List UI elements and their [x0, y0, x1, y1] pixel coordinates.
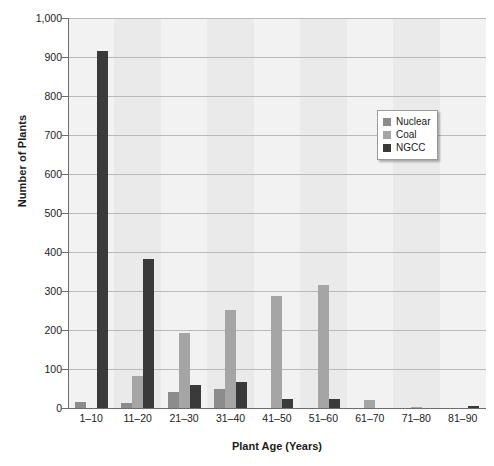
x-axis-tick-label: 61–70 [347, 412, 393, 424]
bar-ngcc-51-60 [329, 399, 340, 408]
bar-group [207, 18, 253, 408]
legend-item-coal[interactable]: Coal [383, 128, 430, 141]
legend-swatch-icon [383, 118, 391, 126]
bar-coal-11-20 [132, 376, 143, 408]
x-axis-tick-label: 81–90 [440, 412, 486, 424]
legend-item-nuclear[interactable]: Nuclear [383, 115, 430, 128]
y-axis-tick-label: 200 [22, 324, 62, 336]
bar-coal-71-80 [411, 407, 422, 408]
bar-coal-61-70 [364, 400, 375, 408]
bar-coal-21-30 [179, 333, 190, 408]
bar-nuclear-11-20 [121, 403, 132, 408]
bar-group [393, 18, 439, 408]
y-axis-tick-label: 500 [22, 207, 62, 219]
y-axis-tick-mark [61, 57, 68, 58]
bar-coal-51-60 [318, 285, 329, 408]
bar-group [300, 18, 346, 408]
y-axis-tick-mark [61, 330, 68, 331]
bar-ngcc-21-30 [190, 385, 201, 408]
bar-group [440, 18, 486, 408]
y-axis-tick-mark [61, 291, 68, 292]
y-axis-tick-mark [61, 96, 68, 97]
x-axis-tick-label: 31–40 [207, 412, 253, 424]
x-axis-title: Plant Age (Years) [68, 440, 486, 452]
bar-group [68, 18, 114, 408]
y-axis-tick-label: 1,000 [22, 12, 62, 24]
bar-group [114, 18, 160, 408]
x-axis-tick-label: 11–20 [114, 412, 160, 424]
bar-ngcc-41-50 [282, 399, 293, 408]
x-axis-tick-label: 51–60 [300, 412, 346, 424]
y-axis-tick-label: 700 [22, 129, 62, 141]
y-axis-tick-label: 600 [22, 168, 62, 180]
y-axis-tick-mark [61, 369, 68, 370]
x-axis-tick-label: 71–80 [393, 412, 439, 424]
legend-label: NGCC [396, 142, 425, 153]
legend-label: Coal [396, 129, 417, 140]
y-axis-tick-label: 300 [22, 285, 62, 297]
bar-ngcc-11-20 [143, 259, 154, 408]
y-axis-tick-mark [61, 174, 68, 175]
bar-ngcc-1-10 [97, 51, 108, 408]
x-axis-tick-label: 1–10 [68, 412, 114, 424]
x-axis-tick-labels: 1–1011–2021–3031–4041–5051–6061–7071–808… [68, 412, 486, 424]
x-axis-tick-label: 41–50 [254, 412, 300, 424]
bar-group [254, 18, 300, 408]
bar-ngcc-81-90 [468, 406, 479, 408]
legend-label: Nuclear [396, 116, 430, 127]
bar-group [161, 18, 207, 408]
bar-groups [68, 18, 486, 408]
y-axis-tick-label: 0 [22, 402, 62, 414]
x-axis-tick-label: 21–30 [161, 412, 207, 424]
bar-coal-31-40 [225, 310, 236, 408]
bar-nuclear-1-10 [75, 402, 86, 408]
bar-group [347, 18, 393, 408]
bar-chart: Number of Plants 1,000900800700600500400… [0, 0, 494, 466]
y-axis-tick-mark [61, 252, 68, 253]
bar-nuclear-21-30 [168, 392, 179, 408]
y-axis-tick-mark [61, 408, 68, 409]
y-axis-tick-label: 800 [22, 90, 62, 102]
legend-item-ngcc[interactable]: NGCC [383, 141, 430, 154]
bar-coal-41-50 [271, 296, 282, 408]
bar-nuclear-31-40 [214, 389, 225, 409]
legend-swatch-icon [383, 144, 391, 152]
y-axis-tick-mark [61, 18, 68, 19]
y-axis-tick-label: 900 [22, 51, 62, 63]
bar-ngcc-31-40 [236, 382, 247, 408]
legend-swatch-icon [383, 131, 391, 139]
y-axis-tick-mark [61, 213, 68, 214]
y-axis-tick-label: 400 [22, 246, 62, 258]
y-axis-tick-label: 100 [22, 363, 62, 375]
y-axis-tick-mark [61, 135, 68, 136]
legend: NuclearCoalNGCC [377, 110, 438, 160]
